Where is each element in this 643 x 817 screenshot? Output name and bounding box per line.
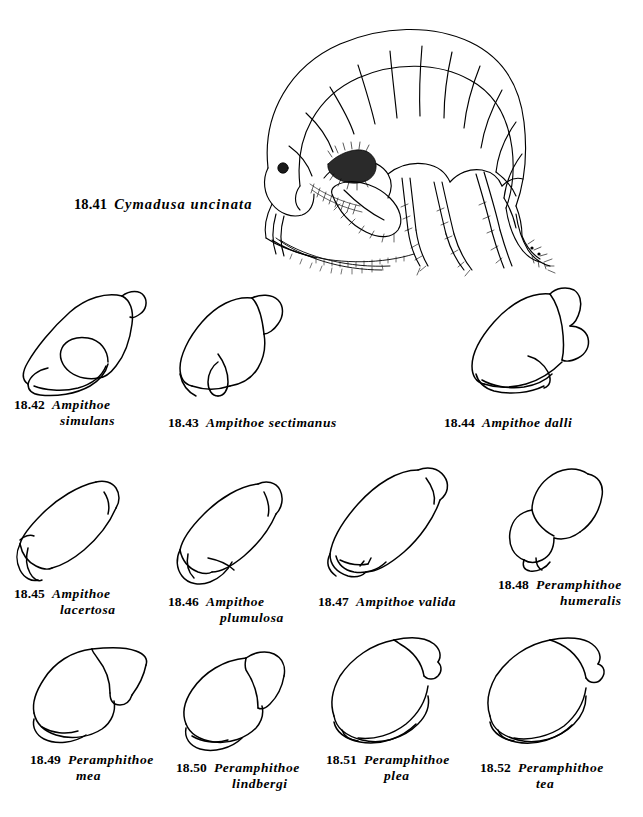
caption-18-48: 18.48Peramphithoe humeralis (498, 577, 622, 608)
figure-number-18-42: 18.42 (14, 397, 45, 412)
figure-18-45-ampithoe-lacertosa (14, 478, 154, 586)
species-epithet-18-50: lindbergi (176, 776, 300, 792)
illustration-plate: 18.41Cymadusa uncinata 18.42Ampithoe sim… (0, 0, 643, 817)
species-genus-18-46: Ampithoe (206, 594, 265, 609)
species-epithet-18-48: humeralis (498, 593, 622, 609)
figure-18-42-ampithoe-simulans (14, 288, 154, 400)
species-genus-18-42: Ampithoe (52, 397, 111, 412)
caption-18-47: 18.47Ampithoe valida (318, 594, 456, 610)
species-genus-18-49: Peramphithoe (68, 752, 154, 767)
species-epithet-18-45: lacertosa (14, 602, 116, 618)
figure-number-18-49: 18.49 (30, 752, 61, 767)
species-name-18-47: Ampithoe valida (356, 594, 456, 609)
figure-18-50-peramphithoe-lindbergi (178, 648, 318, 756)
figure-18-44-ampithoe-dalli (468, 286, 608, 398)
figure-number-18-46: 18.46 (168, 594, 199, 609)
species-genus-18-50: Peramphithoe (214, 760, 300, 775)
species-epithet-18-46: plumulosa (168, 610, 284, 626)
species-genus-18-48: Peramphithoe (536, 577, 622, 592)
caption-18-41: 18.41Cymadusa uncinata (74, 196, 252, 213)
figure-number-18-50: 18.50 (176, 760, 207, 775)
species-genus-18-52: Peramphithoe (518, 760, 604, 775)
figure-number-18-48: 18.48 (498, 577, 529, 592)
figure-18-47-ampithoe-valida (322, 464, 467, 586)
figure-18-41-cymadusa-uncinata (232, 18, 552, 283)
caption-18-46: 18.46Ampithoe plumulosa (168, 594, 284, 625)
figure-18-52-peramphithoe-tea (480, 634, 625, 752)
species-name-18-44: Ampithoe dalli (482, 415, 573, 430)
figure-18-43-ampithoe-sectimanus (172, 292, 312, 402)
species-epithet-18-52: tea (480, 776, 604, 792)
caption-18-51: 18.51Peramphithoe plea (326, 752, 450, 783)
caption-18-45: 18.45Ampithoe lacertosa (14, 586, 116, 617)
caption-18-43: 18.43Ampithoe sectimanus (168, 415, 337, 431)
caption-18-50: 18.50Peramphithoe lindbergi (176, 760, 300, 791)
figure-18-48-peramphithoe-humeralis (492, 458, 622, 578)
species-name-18-43: Ampithoe sectimanus (206, 415, 337, 430)
figure-18-49-peramphithoe-mea (32, 643, 172, 749)
figure-number-18-41: 18.41 (74, 196, 107, 212)
caption-18-52: 18.52Peramphithoe tea (480, 760, 604, 791)
caption-18-44: 18.44Ampithoe dalli (444, 415, 572, 431)
species-name-18-41: Cymadusa uncinata (114, 196, 252, 212)
caption-18-42: 18.42Ampithoe simulans (14, 397, 115, 428)
species-epithet-18-42: simulans (14, 413, 115, 429)
caption-18-49: 18.49Peramphithoe mea (30, 752, 154, 783)
figure-number-18-51: 18.51 (326, 752, 357, 767)
species-epithet-18-51: plea (326, 768, 450, 784)
figure-number-18-43: 18.43 (168, 415, 199, 430)
figure-18-51-peramphithoe-plea (328, 634, 468, 752)
figure-number-18-52: 18.52 (480, 760, 511, 775)
figure-number-18-45: 18.45 (14, 586, 45, 601)
figure-number-18-47: 18.47 (318, 594, 349, 609)
figure-number-18-44: 18.44 (444, 415, 475, 430)
species-genus-18-45: Ampithoe (52, 586, 111, 601)
species-genus-18-51: Peramphithoe (364, 752, 450, 767)
figure-18-46-ampithoe-plumulosa (172, 480, 312, 588)
species-epithet-18-49: mea (30, 768, 154, 784)
